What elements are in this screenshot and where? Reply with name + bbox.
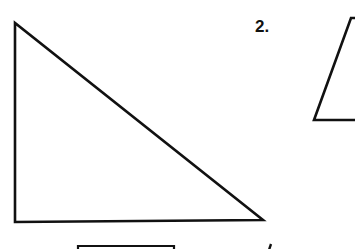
- problem-number-label: 2.: [255, 18, 269, 35]
- trapezoid-shape: [314, 18, 355, 120]
- right-triangle-shape: [15, 23, 263, 222]
- partial-mark: [269, 244, 271, 249]
- worksheet-canvas: [0, 0, 355, 249]
